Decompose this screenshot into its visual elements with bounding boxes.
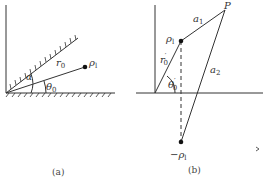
slanted-wall — [6, 38, 78, 93]
rho-l-label: ρl — [89, 58, 97, 70]
rho-l-point — [83, 65, 88, 70]
rho-l-label-b: ρl — [166, 34, 174, 46]
neg-rho-l-label: −ρl — [170, 150, 187, 162]
rho-l-point-b — [179, 39, 184, 44]
ground-hatching — [6, 93, 111, 97]
theta0-prime-label: θ′0 — [168, 78, 177, 92]
caption-b: (b) — [188, 166, 201, 175]
a2-label: a2 — [210, 65, 220, 77]
diagram-canvas — [0, 0, 271, 181]
a1-label: a1 — [193, 14, 203, 26]
p-label: P — [224, 1, 231, 11]
panel-b — [136, 5, 263, 151]
stray-mark — [256, 147, 259, 151]
r0-prime-label: r′0 — [160, 53, 168, 67]
r0-label: r0 — [56, 58, 65, 70]
neg-rho-l-point — [179, 140, 184, 145]
alpha-label: α — [26, 73, 32, 82]
panel-a — [6, 5, 115, 97]
caption-a: (a) — [52, 168, 64, 177]
theta0-label: θ0 — [46, 82, 57, 94]
